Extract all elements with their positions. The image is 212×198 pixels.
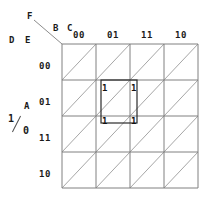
cell-value-1: 1 (131, 84, 136, 93)
kmap-grid (0, 0, 212, 198)
cell-value-0: 1 (102, 84, 107, 93)
cell-value-3: 1 (131, 117, 136, 126)
f-leader-line (34, 20, 62, 44)
karnaugh-map-diagram: F B C D E A 1 0 00 01 11 10 00 01 11 10 (0, 0, 212, 198)
cell-value-2: 1 (102, 117, 107, 126)
